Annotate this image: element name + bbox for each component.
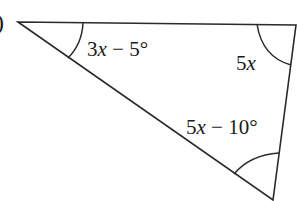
angle-label-top-right: 5x bbox=[236, 51, 257, 75]
part-label: ) bbox=[0, 9, 4, 35]
triangle-diagram: ) 3x − 5° 5x 5x − 10° bbox=[0, 0, 297, 201]
angle-label-bottom: 5x − 10° bbox=[186, 115, 258, 139]
angle-arc-top-right bbox=[257, 24, 291, 65]
angle-label-top-left: 3x − 5° bbox=[87, 37, 148, 61]
angle-arc-bottom bbox=[234, 153, 279, 174]
triangle bbox=[18, 22, 296, 200]
angle-arc-top-left bbox=[68, 23, 83, 58]
